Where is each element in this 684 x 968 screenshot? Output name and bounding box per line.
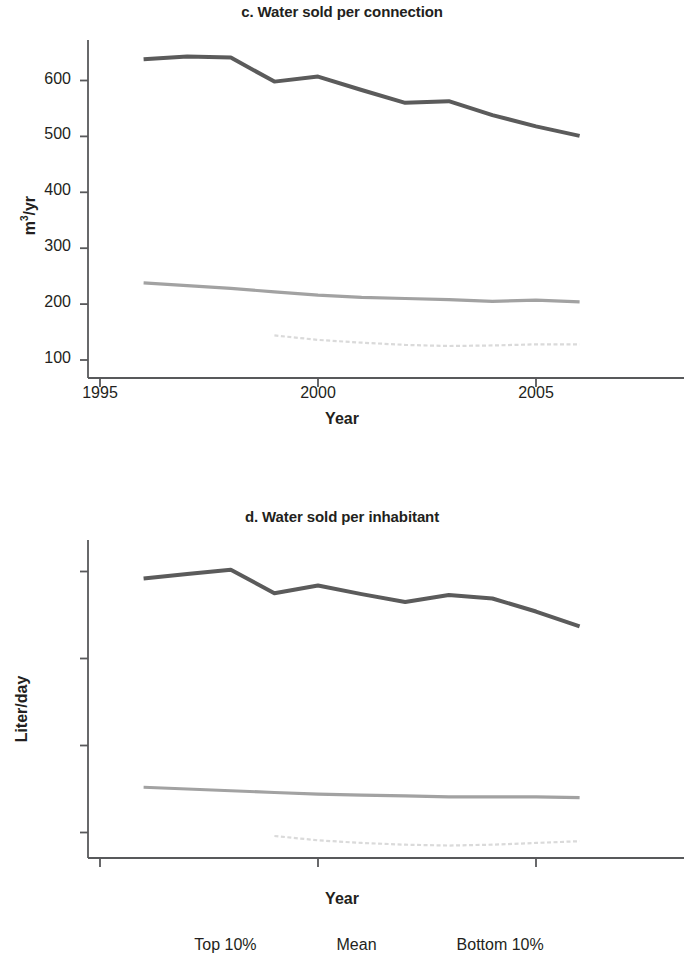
y-tick-label: 400 <box>13 181 71 199</box>
chart-panel-c: c. Water sold per connection m3/yr Year … <box>0 0 684 440</box>
y-tick-label: 300 <box>13 237 71 255</box>
y-tick-label: 200 <box>13 293 71 311</box>
chart-legend: Top 10% Mean Bottom 10% <box>0 936 684 954</box>
y-tick-label: 600 <box>13 70 71 88</box>
legend-label-bottom-10: Bottom 10% <box>457 936 544 954</box>
y-tick-label: 500 <box>13 125 71 143</box>
legend-item-mean[interactable]: Mean <box>283 936 377 954</box>
chart-panel-d: d. Water sold per inhabitant Liter/day Y… <box>0 500 684 920</box>
panel-d-x-axis-label: Year <box>0 890 684 908</box>
panel-c-x-axis-label: Year <box>0 410 684 428</box>
y-tick-label: 100 <box>13 349 71 367</box>
x-tick-label: 2000 <box>288 384 348 402</box>
legend-item-top-10[interactable]: Top 10% <box>140 936 256 954</box>
legend-label-top-10: Top 10% <box>194 936 256 954</box>
y-axis-unit-m: m <box>21 221 38 235</box>
series-line-mean <box>144 283 580 302</box>
series-line-top-10 <box>144 570 580 627</box>
x-tick-label: 1995 <box>70 384 130 402</box>
legend-item-bottom-10[interactable]: Bottom 10% <box>403 936 544 954</box>
panel-d-plot <box>0 500 684 920</box>
panel-c-plot <box>0 0 684 440</box>
x-tick-label: 2005 <box>506 384 566 402</box>
figure-container: c. Water sold per connection m3/yr Year … <box>0 0 684 968</box>
series-line-mean <box>144 787 580 797</box>
legend-label-mean: Mean <box>337 936 377 954</box>
series-line-bottom-10 <box>274 335 579 346</box>
series-line-top-10 <box>144 56 580 135</box>
series-line-bottom-10 <box>274 836 579 846</box>
y-axis-unit-exponent: 3 <box>19 216 30 222</box>
panel-d-y-axis-label: Liter/day <box>13 664 31 754</box>
